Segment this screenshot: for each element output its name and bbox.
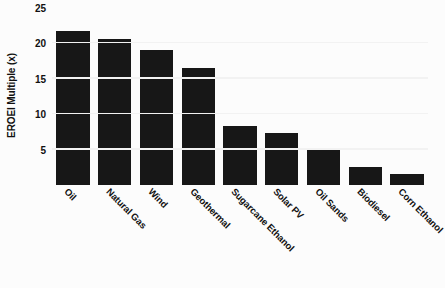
- y-tick-label: 25: [35, 3, 46, 14]
- bar: [140, 50, 173, 185]
- chart-figure: EROEI Multiple (x) 510152025 OilNatural …: [0, 0, 445, 288]
- y-axis-title: EROEI Multiple (x): [0, 0, 22, 190]
- y-tick-label: 20: [35, 38, 46, 49]
- plot-area: [52, 8, 428, 185]
- x-axis-tick-labels: OilNatural GasWindGeothermalSugarcane Et…: [52, 186, 428, 286]
- y-axis-tick-labels: 510152025: [22, 0, 50, 190]
- y-tick-label: 5: [40, 144, 46, 155]
- x-tick-label: Geothermal: [188, 186, 232, 230]
- bars-layer: [52, 8, 428, 185]
- x-tick-label: Oil Sands: [313, 186, 351, 224]
- bar: [307, 148, 340, 185]
- bar: [223, 126, 256, 185]
- y-axis-title-text: EROEI Multiple (x): [6, 53, 17, 138]
- y-tick-label: 10: [35, 109, 46, 120]
- x-tick-label: Solar PV: [271, 186, 306, 221]
- x-tick-label: Oil: [62, 186, 79, 203]
- bar: [265, 133, 298, 185]
- x-tick-label: Biodiesel: [355, 186, 392, 223]
- bar: [182, 68, 215, 185]
- x-tick-label: Natural Gas: [104, 186, 149, 231]
- x-tick-label: Wind: [146, 186, 170, 210]
- bar: [390, 174, 423, 185]
- bar: [98, 39, 131, 185]
- bar: [56, 31, 89, 185]
- y-tick-label: 15: [35, 73, 46, 84]
- bar: [349, 167, 382, 185]
- x-tick-label: Corn Ethanol: [397, 186, 445, 235]
